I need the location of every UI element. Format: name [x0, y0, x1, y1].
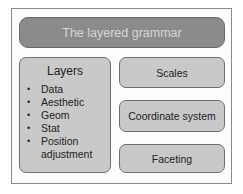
layers-list: Data Aesthetic Geom Stat Position adjust… — [20, 83, 110, 161]
coordinate-system-box: Coordinate system — [119, 100, 225, 132]
layer-item-data: Data — [41, 83, 110, 96]
layer-item-geom: Geom — [41, 109, 110, 122]
layer-item-aesthetic: Aesthetic — [41, 96, 110, 109]
layers-box: Layers Data Aesthetic Geom Stat Position… — [19, 57, 111, 173]
title-text: The layered grammar — [62, 26, 182, 40]
layers-heading: Layers — [20, 64, 110, 78]
title-banner: The layered grammar — [19, 17, 225, 48]
layer-item-position-adjustment: Position adjustment — [41, 135, 110, 161]
faceting-box: Faceting — [119, 144, 225, 173]
scales-box: Scales — [119, 57, 225, 88]
layer-item-stat: Stat — [41, 122, 110, 135]
scales-label: Scales — [156, 67, 188, 79]
coordinate-system-label: Coordinate system — [128, 110, 216, 122]
faceting-label: Faceting — [152, 153, 192, 165]
